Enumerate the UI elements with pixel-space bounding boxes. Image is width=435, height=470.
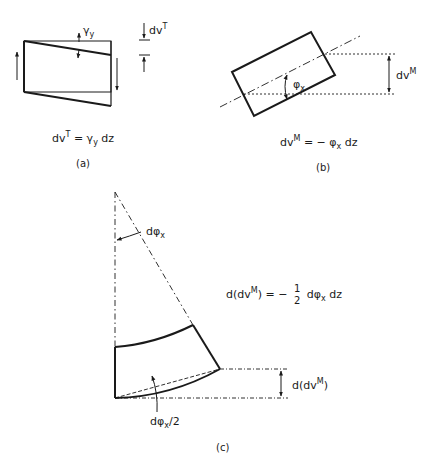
- apex-angle-arc: [117, 232, 141, 240]
- dphi-x-apex-label: dφx: [146, 226, 165, 240]
- phi-angle-arc: [285, 75, 287, 99]
- dvT-label: dvT: [149, 23, 167, 36]
- one-half-fraction: 12: [294, 283, 300, 307]
- diagram-canvas: [0, 0, 435, 470]
- gamma-y-label: γy: [83, 25, 94, 39]
- dvM-label: dvM: [396, 68, 416, 81]
- equation-a: dvT = γy dz: [52, 131, 114, 147]
- equation-b: dvM = − φx dz: [280, 135, 358, 151]
- caption-a: (a): [76, 159, 90, 169]
- equation-c: d(dvM) = − 12 dφx dz: [226, 283, 342, 307]
- caption-b: (b): [316, 163, 330, 173]
- dphi-x-half-label: dφx/2: [150, 416, 180, 430]
- ddvM-label: d(dvM): [292, 378, 328, 391]
- panel-b-rotated-element: [220, 32, 396, 116]
- phi-x-label: φx: [293, 79, 305, 93]
- caption-c: (c): [216, 443, 229, 453]
